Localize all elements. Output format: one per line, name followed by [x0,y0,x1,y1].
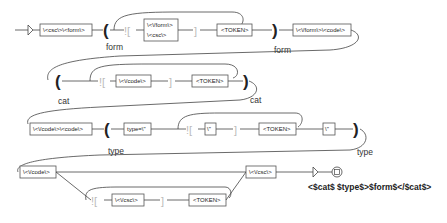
var-close-paren-cat[interactable]: ) [243,72,249,91]
end-csc-box[interactable]: \<\/csc\> [246,166,276,178]
row-3: \<\/code\>\<code\> ( type type=\" ![ \" … [18,113,374,172]
row-1: \<csc\>\<form\> ( form ![ \<\/form\> \<c… [15,12,358,80]
type-box[interactable]: type=\" [124,123,151,135]
token-box[interactable]: <TOKEN> [192,75,228,87]
end-csc-box-label: \<\/csc\> [249,169,272,175]
quote-box-label: \" [325,126,329,132]
code-close-box[interactable]: \<\/code\> [116,75,151,87]
context-close[interactable]: ] [169,76,172,88]
start-box-label: \<csc\>\<form\> [43,27,85,33]
alt-box-line2: \<csc\> [147,32,167,38]
start-box-code-code[interactable]: \<\/code\>\<code\> [30,123,92,135]
code-close-box-row4[interactable]: \<\/code\> [20,166,56,178]
token-box[interactable]: <TOKEN> [217,24,252,36]
var-label-type-close: type [357,147,373,157]
grammar-graph: \<csc\>\<form\> ( form ![ \<\/form\> \<c… [0,0,447,223]
token-label: <TOKEN> [221,27,249,33]
end-box-form-code[interactable]: \<\/form\>\<code\> [293,24,351,36]
token-box[interactable]: <TOKEN> [189,194,226,206]
var-close-paren-type[interactable]: ) [353,120,359,139]
row-4: \<\/code\> ![ \<\/csc\> ] <TOKEN> \<\/cs… [20,166,431,207]
var-open-paren-cat[interactable]: ( [55,72,61,91]
context-open[interactable]: ![ [186,124,192,136]
code-box-label: \<\/code\> [23,169,50,175]
var-open-paren-form[interactable]: ( [103,21,109,40]
row-2: ( cat ![ \<\/code\> ] <TOKEN> ) cat [28,64,262,124]
quote-box-label: \" [207,126,211,132]
code-box-label: \<\/code\> [119,78,146,84]
final-state-icon[interactable] [332,167,342,177]
context-open[interactable]: ![ [99,76,105,88]
alt-box-line1: \<\/form\> [147,22,173,28]
start-box-label: \<\/code\>\<code\> [33,126,84,132]
alt-box-form-csc[interactable]: \<\/form\> \<csc\> [144,19,178,41]
var-label-form-close: form [274,45,291,55]
var-label-cat-open: cat [58,96,70,106]
token-label: <TOKEN> [263,126,291,132]
context-open[interactable]: ![ [124,25,130,37]
token-box[interactable]: <TOKEN> [259,123,296,135]
var-close-paren-form[interactable]: ) [272,21,278,40]
token-label: <TOKEN> [196,78,224,84]
context-close[interactable]: ] [161,195,164,207]
transducer-output: <$cat$ $type$>$form$</$cat$> [308,182,431,192]
start-box-csc-form[interactable]: \<csc\>\<form\> [40,24,92,36]
var-label-form-open: form [106,42,123,52]
quote-box[interactable]: \" [205,123,216,135]
end-box-label: \<\/form\>\<code\> [296,27,346,33]
quote-box-2[interactable]: \" [323,123,335,135]
var-open-paren-type[interactable]: ( [104,120,110,139]
token-label: <TOKEN> [193,197,221,203]
csc-close-box[interactable]: \<\/csc\> [112,194,144,206]
csc-box-label: \<\/csc\> [115,197,138,203]
initial-state-icon[interactable] [28,25,33,35]
context-open[interactable]: ![ [91,195,97,207]
output-arrow-icon [313,167,318,177]
type-box-label: type=\" [127,126,146,132]
context-close[interactable]: ] [194,25,197,37]
context-close[interactable]: ] [234,124,237,136]
